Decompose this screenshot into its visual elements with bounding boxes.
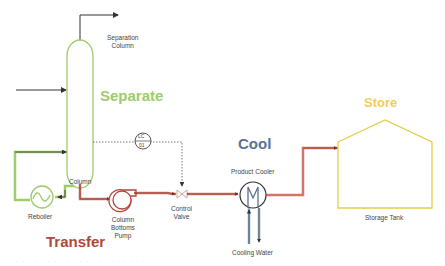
separation-column-label: Separation Column bbox=[107, 34, 138, 50]
separation-column-label-line2: Column bbox=[107, 42, 138, 50]
stage-label-store: Store bbox=[364, 95, 397, 110]
storage-tank-icon bbox=[338, 120, 432, 208]
stage-label-separate: Separate bbox=[100, 87, 163, 104]
control-valve-label-line1: Control bbox=[171, 205, 192, 213]
storage-tank-label: Storage Tank bbox=[365, 214, 403, 222]
product-line bbox=[266, 148, 338, 195]
pump-label-line1: Column bbox=[111, 216, 135, 224]
footer-faint-text: . . . . . . . . . . . . . . . . . . . . … bbox=[10, 257, 146, 263]
cooling-water-label: Cooling Water bbox=[232, 249, 273, 257]
stage-label-transfer: Transfer bbox=[46, 233, 105, 250]
pump-label: Column Bottoms Pump bbox=[111, 216, 135, 240]
control-valve-icon bbox=[177, 190, 187, 198]
product-cooler-icon bbox=[240, 182, 266, 208]
column-label: Column bbox=[69, 178, 91, 186]
separation-column-vessel bbox=[67, 40, 93, 188]
control-valve-label-line2: Valve bbox=[171, 213, 192, 221]
reboiler-feed-line bbox=[55, 186, 74, 197]
separation-column-label-line1: Separation bbox=[107, 34, 138, 42]
reboiler-label: Reboiler bbox=[28, 213, 52, 221]
cooling-water-lines bbox=[249, 208, 259, 244]
control-valve-label: Control Valve bbox=[171, 205, 192, 221]
pump-label-line2: Bottoms bbox=[111, 224, 135, 232]
product-cooler-label: Product Cooler bbox=[231, 168, 274, 176]
process-flow-diagram bbox=[0, 0, 445, 266]
lc-tag-top: LC bbox=[138, 133, 144, 139]
stage-label-cool: Cool bbox=[238, 135, 271, 152]
control-signal-line bbox=[93, 142, 182, 186]
lc-tag-bottom: 01 bbox=[139, 142, 145, 148]
pump-label-line3: Pump bbox=[111, 232, 135, 240]
